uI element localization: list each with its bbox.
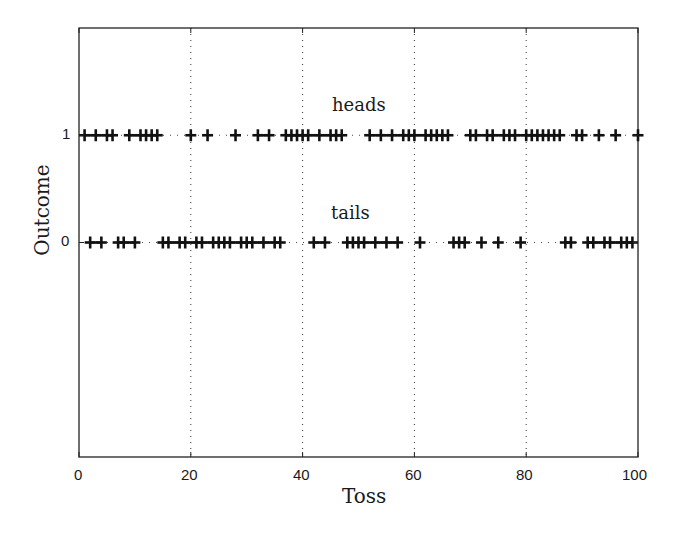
heads-marker [364, 129, 375, 141]
heads-marker [387, 129, 398, 141]
heads-marker [610, 129, 621, 141]
tails-marker [565, 237, 576, 249]
ytick-label-1: 1 [62, 125, 70, 142]
tails-marker [258, 237, 269, 249]
tails-marker [359, 237, 370, 249]
xtick-label-40: 40 [293, 466, 310, 483]
heads-marker [593, 129, 604, 141]
heads-annotation: heads [332, 94, 386, 115]
heads-marker [375, 129, 386, 141]
heads-marker [470, 129, 481, 141]
heads-marker [107, 129, 118, 141]
heads-marker [510, 129, 521, 141]
heads-marker [124, 129, 135, 141]
heads-marker [487, 129, 498, 141]
heads-marker [409, 129, 420, 141]
tails-marker [476, 237, 487, 249]
heads-marker [90, 129, 101, 141]
tails-marker [224, 237, 235, 249]
heads-marker [185, 129, 196, 141]
heads-marker [554, 129, 565, 141]
heads-marker [202, 129, 213, 141]
heads-marker [336, 129, 347, 141]
tails-marker [118, 237, 129, 249]
xtick-label-0: 0 [74, 466, 82, 483]
tails-marker [319, 237, 330, 249]
xtick-label-100: 100 [622, 466, 647, 483]
tails-marker [605, 237, 616, 249]
heads-marker [264, 129, 275, 141]
xtick-label-20: 20 [181, 466, 198, 483]
heads-marker [230, 129, 241, 141]
tails-marker [414, 237, 425, 249]
tails-marker [308, 237, 319, 249]
xtick-label-80: 80 [516, 466, 533, 483]
tails-marker [459, 237, 470, 249]
tails-marker [392, 237, 403, 249]
tails-marker [247, 237, 258, 249]
coin-toss-chart [0, 0, 687, 534]
x-axis-title: Toss [342, 484, 386, 508]
heads-marker [303, 129, 314, 141]
xtick-label-60: 60 [405, 466, 422, 483]
tails-marker [493, 237, 504, 249]
tails-marker [129, 237, 140, 249]
tails-marker [515, 237, 526, 249]
tails-marker [196, 237, 207, 249]
tails-marker [85, 237, 96, 249]
y-axis-title: Outcome [30, 160, 54, 260]
tails-annotation: tails [331, 202, 370, 223]
tails-marker [381, 237, 392, 249]
data-markers [79, 129, 643, 248]
tails-marker [588, 237, 599, 249]
heads-marker [577, 129, 588, 141]
heads-marker [152, 129, 163, 141]
tails-marker [96, 237, 107, 249]
row-dotted-lines [79, 135, 638, 242]
ytick-label-0: 0 [61, 232, 69, 249]
heads-marker [442, 129, 453, 141]
tails-marker [163, 237, 174, 249]
tails-marker [370, 237, 381, 249]
heads-marker [252, 129, 263, 141]
tails-marker [180, 237, 191, 249]
heads-marker [314, 129, 325, 141]
tails-marker [275, 237, 286, 249]
